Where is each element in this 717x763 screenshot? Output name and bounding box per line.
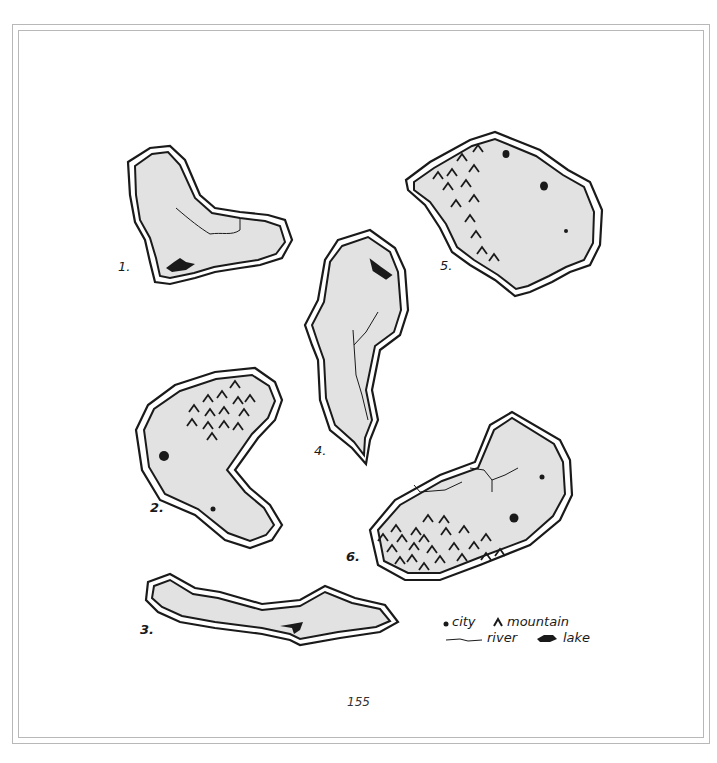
island-label-3: 3. xyxy=(140,622,154,637)
island-4: 4. xyxy=(305,230,408,464)
island-2: 2. xyxy=(136,368,282,548)
legend: city mountain river lake xyxy=(444,614,591,645)
island-label-1: 1. xyxy=(118,259,130,274)
city-dot-icon xyxy=(444,622,449,627)
city-icon xyxy=(564,229,568,233)
island-label-4: 4. xyxy=(314,443,326,458)
island-5: 5. xyxy=(406,132,602,296)
island-label-2: 2. xyxy=(150,500,164,515)
city-icon xyxy=(540,475,545,480)
mountain-caret-icon xyxy=(494,619,502,626)
island-label-5: 5. xyxy=(440,258,452,273)
river-line-icon xyxy=(446,639,482,641)
legend-label-lake: lake xyxy=(563,630,590,645)
legend-label-river: river xyxy=(487,630,519,645)
city-icon xyxy=(510,514,519,523)
island-1: 1. xyxy=(118,146,292,284)
lake-blob-icon xyxy=(537,635,557,642)
city-icon xyxy=(540,182,548,191)
legend-label-city: city xyxy=(452,614,476,629)
city-icon xyxy=(159,451,169,461)
legend-label-mountain: mountain xyxy=(507,614,569,629)
page-number: 155 xyxy=(0,695,717,709)
island-3: 3. xyxy=(140,574,398,645)
city-icon xyxy=(211,507,216,512)
city-icon xyxy=(503,150,510,158)
island-6: 6. xyxy=(346,412,572,580)
island-label-6: 6. xyxy=(346,549,360,564)
islands-map: 1. 5. 4. 2. xyxy=(0,0,717,763)
